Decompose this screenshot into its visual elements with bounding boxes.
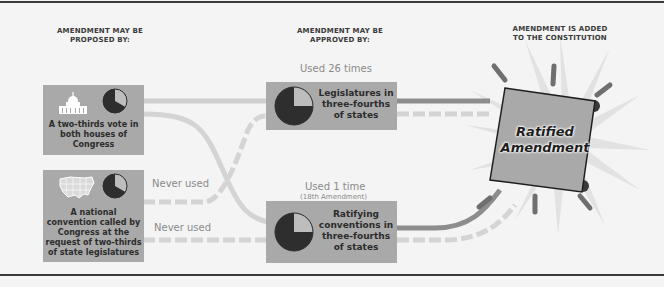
usage-conventions-note: (18th Amendment) (300, 193, 367, 201)
ratified-label-line2: Amendment (497, 140, 593, 156)
proposal-convention-box: A national convention called by Congress… (43, 170, 144, 262)
capitol-building-icon (58, 91, 88, 115)
ratified-label-line1: Ratified (497, 124, 593, 140)
stage-label-approved: Amendment may be approved by: (295, 27, 385, 44)
approval-legislatures-box: Legislatures in three-fourths of states (266, 82, 397, 130)
never-used-to-conventions: Never used (154, 222, 211, 233)
usage-legislatures: Used 26 times (300, 63, 372, 74)
us-map-icon (58, 175, 96, 201)
proposal-congress-box: A two-thirds vote in both houses of Cong… (43, 85, 144, 155)
approval-conventions-box: Ratifying conventions in three-fourths o… (266, 201, 397, 263)
stage-label-added: Amendment is added to the Constitution (510, 25, 610, 42)
three-fourths-pie-icon (274, 86, 314, 126)
proposal-congress-label: A two-thirds vote in both houses of Cong… (45, 120, 142, 150)
two-thirds-pie-icon (102, 173, 128, 199)
three-fourths-pie-icon (274, 212, 314, 252)
proposal-convention-label: A national convention called by Congress… (45, 208, 142, 258)
stage-label-proposed: Amendment may be proposed by: (45, 27, 155, 44)
two-thirds-pie-icon (102, 88, 128, 114)
never-used-to-legislatures: Never used (152, 178, 209, 189)
usage-conventions: Used 1 time (305, 181, 365, 192)
ratified-amendment-label: Ratified Amendment (497, 124, 593, 156)
approval-conventions-label: Ratifying conventions in three-fourths o… (318, 209, 394, 253)
approval-legislatures-label: Legislatures in three-fourths of states (318, 88, 394, 121)
